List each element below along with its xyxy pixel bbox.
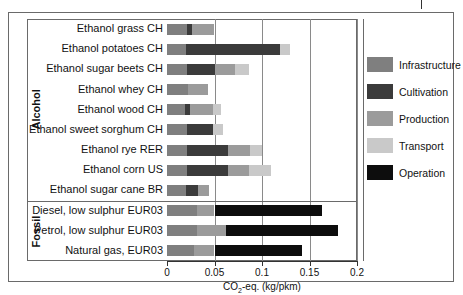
bar-segment-infrastructure[interactable] xyxy=(167,245,194,256)
bar-row[interactable] xyxy=(167,104,357,115)
bar-segment-cultivation[interactable] xyxy=(186,44,280,55)
category-label: Ethanol sugar cane BR xyxy=(50,184,163,195)
bar-segment-infrastructure[interactable] xyxy=(167,225,197,236)
bar-segment-production[interactable] xyxy=(228,165,249,176)
bar-segment-production[interactable] xyxy=(190,104,213,115)
legend-item[interactable]: Infrastructure xyxy=(367,57,461,72)
bar-segment-infrastructure[interactable] xyxy=(167,64,187,75)
bar-segment-infrastructure[interactable] xyxy=(167,165,187,176)
figure-frame: AlcoholFossilEthanol grass CHEthanol pot… xyxy=(8,12,454,282)
bar-row[interactable] xyxy=(167,185,357,196)
x-tick xyxy=(357,261,358,266)
category-label: Ethanol sweet sorghum CH xyxy=(29,124,163,135)
category-label: Ethanol sugar beets CH xyxy=(46,63,163,74)
bar-segment-operation[interactable] xyxy=(215,245,302,256)
gridline-x-0_2 xyxy=(357,19,358,261)
bar-segment-infrastructure[interactable] xyxy=(167,44,186,55)
legend-label: Cultivation xyxy=(399,86,448,98)
legend: InfrastructureCultivationProductionTrans… xyxy=(363,19,447,261)
bar-row[interactable] xyxy=(167,24,357,35)
x-tick xyxy=(262,261,263,266)
bar-segment-infrastructure[interactable] xyxy=(167,205,197,216)
bar-row[interactable] xyxy=(167,124,357,135)
bar-segment-transport[interactable] xyxy=(280,44,290,55)
bar-segment-production[interactable] xyxy=(198,185,208,196)
x-tick-label: 0.15 xyxy=(300,267,319,278)
legend-item[interactable]: Cultivation xyxy=(367,84,448,99)
legend-swatch-cultivation xyxy=(367,84,393,99)
x-tick-label: 0.05 xyxy=(205,267,224,278)
bar-segment-operation[interactable] xyxy=(226,225,338,236)
bar-segment-production[interactable] xyxy=(188,84,208,95)
category-label: Diesel, low sulphur EUR03 xyxy=(32,205,163,216)
bar-row[interactable] xyxy=(167,225,357,236)
bars-container xyxy=(167,19,357,261)
group-label-alcohol: Alcohol xyxy=(30,19,42,201)
category-label: Ethanol corn US xyxy=(83,164,163,175)
figure-root: AlcoholFossilEthanol grass CHEthanol pot… xyxy=(0,0,463,295)
bar-segment-cultivation[interactable] xyxy=(187,64,216,75)
x-tick-label: 0.1 xyxy=(255,267,269,278)
legend-item[interactable]: Operation xyxy=(367,165,445,180)
category-label: Ethanol grass CH xyxy=(77,23,163,34)
bar-segment-infrastructure[interactable] xyxy=(167,145,187,156)
category-label-column: AlcoholFossilEthanol grass CHEthanol pot… xyxy=(27,19,167,261)
legend-label: Production xyxy=(399,113,449,125)
legend-label: Transport xyxy=(399,140,444,152)
category-label: Natural gas, EUR03 xyxy=(65,245,163,256)
bar-row[interactable] xyxy=(167,205,357,216)
bar-segment-infrastructure[interactable] xyxy=(167,84,188,95)
category-label: Ethanol potatoes CH xyxy=(61,43,163,54)
bar-segment-infrastructure[interactable] xyxy=(167,104,185,115)
legend-swatch-infrastructure xyxy=(367,57,393,72)
bar-segment-production[interactable] xyxy=(215,64,235,75)
category-label: Ethanol wood CH xyxy=(77,104,163,115)
bar-segment-production[interactable] xyxy=(197,205,214,216)
bar-segment-infrastructure[interactable] xyxy=(167,185,186,196)
top-crop-tick xyxy=(421,0,422,9)
category-label: Ethanol whey CH xyxy=(78,84,163,95)
bar-row[interactable] xyxy=(167,44,357,55)
x-tick xyxy=(167,261,168,266)
legend-item[interactable]: Production xyxy=(367,111,449,126)
bar-segment-cultivation[interactable] xyxy=(187,124,213,135)
bar-segment-production[interactable] xyxy=(197,225,226,236)
bar-segment-infrastructure[interactable] xyxy=(167,124,187,135)
legend-swatch-transport xyxy=(367,138,393,153)
bar-segment-transport[interactable] xyxy=(235,64,248,75)
bar-row[interactable] xyxy=(167,64,357,75)
plot-area: AlcoholFossilEthanol grass CHEthanol pot… xyxy=(27,19,357,261)
category-label: Ethanol rye RER xyxy=(81,144,163,155)
group-separator xyxy=(27,201,357,202)
bar-segment-cultivation[interactable] xyxy=(186,185,198,196)
bar-segment-infrastructure[interactable] xyxy=(167,24,187,35)
x-axis-title: CO2-eq. (kg/pkm) xyxy=(167,281,357,294)
category-label: Petrol, low sulphur EUR03 xyxy=(34,225,163,236)
bar-segment-transport[interactable] xyxy=(213,104,222,115)
x-tick xyxy=(215,261,216,266)
bar-segment-transport[interactable] xyxy=(250,145,262,156)
bar-row[interactable] xyxy=(167,145,357,156)
bar-row[interactable] xyxy=(167,84,357,95)
bar-segment-production[interactable] xyxy=(194,245,215,256)
x-tick-label: 0.2 xyxy=(350,267,364,278)
legend-item[interactable]: Transport xyxy=(367,138,444,153)
bar-segment-production[interactable] xyxy=(192,24,215,35)
bar-row[interactable] xyxy=(167,165,357,176)
bar-segment-cultivation[interactable] xyxy=(187,165,228,176)
legend-swatch-operation xyxy=(367,165,393,180)
x-tick xyxy=(310,261,311,266)
bar-segment-transport[interactable] xyxy=(213,124,223,135)
bar-segment-production[interactable] xyxy=(228,145,250,156)
bar-segment-cultivation[interactable] xyxy=(187,145,228,156)
legend-swatch-production xyxy=(367,111,393,126)
bar-segment-operation[interactable] xyxy=(215,205,322,216)
bar-segment-transport[interactable] xyxy=(249,165,271,176)
x-tick-label: 0 xyxy=(164,267,170,278)
legend-label: Infrastructure xyxy=(399,59,461,71)
legend-label: Operation xyxy=(399,167,445,179)
bar-row[interactable] xyxy=(167,245,357,256)
